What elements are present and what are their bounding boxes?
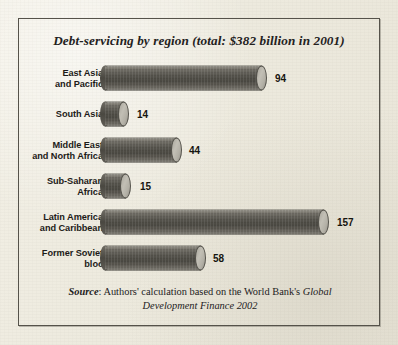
source-prefix: Source (68, 286, 98, 297)
bar-end-cap (195, 246, 206, 271)
bar-cylinder[interactable] (105, 66, 267, 91)
bar-value-label: 58 (213, 253, 224, 264)
bar-row: Latin America and Caribbean 157 (19, 207, 381, 237)
bar-value-label: 14 (137, 109, 148, 120)
bar-body (105, 66, 262, 91)
bar-row: Sub-Saharan Africa 15 (19, 171, 381, 201)
bar-category-label-line2: and Caribbean (19, 222, 103, 233)
bar-end-cap (118, 102, 129, 127)
bar-cylinder[interactable] (105, 210, 329, 235)
bar-value-label: 94 (275, 73, 286, 84)
bar-category-label: Middle East and North Africa (19, 140, 103, 161)
chart-plot-area: East Asia and Pacific 94 South Asia (19, 63, 381, 278)
chart-source-note: Source: Authors' calculation based on th… (47, 285, 353, 312)
bar-row: Former Soviet bloc 58 (19, 243, 381, 273)
bar-end-cap (171, 138, 182, 163)
bar-category-label: Former Soviet bloc (19, 248, 103, 269)
bar-body (105, 246, 201, 271)
chart-title: Debt-servicing by region (total: $382 bi… (19, 33, 379, 49)
bar-category-label-line1: Sub-Saharan (47, 176, 103, 186)
bar-end-cap (120, 174, 131, 199)
bar-row: South Asia 14 (19, 99, 381, 129)
bar-category-label-line2: Africa (19, 186, 103, 197)
bar-category-label-line1: South Asia (56, 109, 103, 119)
bar-category-label: Latin America and Caribbean (19, 212, 103, 233)
bar-value-label: 15 (140, 181, 151, 192)
bar-row: Middle East and North Africa 44 (19, 135, 381, 165)
source-body: : Authors' calculation based on the Worl… (99, 286, 303, 297)
bar-body (105, 138, 177, 163)
bar-category-label-line1: East Asia (62, 68, 103, 78)
bar-row: East Asia and Pacific 94 (19, 63, 381, 93)
bar-end-cap (318, 210, 329, 235)
chart-frame: Debt-servicing by region (total: $382 bi… (18, 18, 380, 326)
bar-category-label-line2: bloc (19, 258, 103, 269)
bar-cylinder[interactable] (105, 138, 182, 163)
bar-value-label: 44 (189, 145, 200, 156)
bar-category-label-line2: and North Africa (19, 150, 103, 161)
bar-category-label: East Asia and Pacific (19, 68, 103, 89)
bar-category-label-line1: Former Soviet (42, 248, 103, 258)
bar-category-label-line2: and Pacific (19, 78, 103, 89)
bar-body (105, 210, 324, 235)
bar-value-label: 157 (337, 217, 354, 228)
bar-cylinder[interactable] (105, 246, 206, 271)
bar-category-label-line1: Latin America (43, 212, 103, 222)
bar-category-label: South Asia (19, 109, 103, 120)
bar-cylinder[interactable] (105, 102, 129, 127)
bar-end-cap (256, 66, 267, 91)
bar-category-label-line1: Middle East (52, 140, 103, 150)
bar-category-label: Sub-Saharan Africa (19, 176, 103, 197)
bar-cylinder[interactable] (105, 174, 131, 199)
